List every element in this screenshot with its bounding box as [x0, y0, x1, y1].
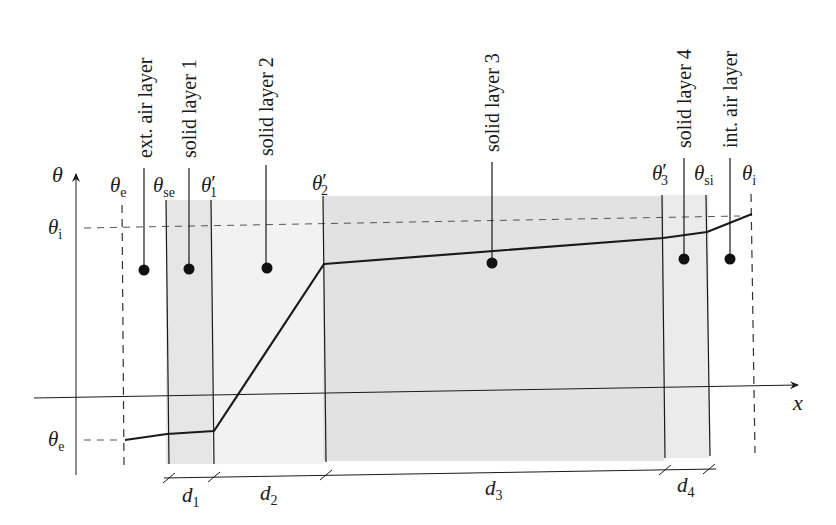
solid-layer-1-label: solid layer 1 [178, 59, 201, 158]
theta-2-prime-label: θ′2 [312, 169, 328, 198]
theta-i-label: θi [742, 161, 756, 188]
d1-label: d1 [182, 483, 200, 510]
int-boundary-dashed [751, 194, 755, 453]
ext-air-layer-dot [139, 265, 150, 276]
theta-e-label: θe [110, 173, 127, 200]
solid-layer-4-label: solid layer 4 [673, 49, 696, 148]
wall-temperature-diagram: ext. air layer solid layer 1 solid layer… [0, 0, 836, 525]
theta-3-prime-label: θ′3 [652, 159, 668, 188]
theta-e-tick-label: θe [48, 427, 65, 454]
d3-label: d3 [485, 476, 503, 503]
theta-i-tick-label: θi [48, 215, 62, 242]
int-air-layer-dot [725, 254, 736, 265]
solid-layer-3-dot [487, 258, 498, 269]
int-air-layer-label: int. air layer [719, 50, 742, 148]
solid-layer-2-region [212, 200, 323, 464]
solid-layer-3-region [323, 196, 664, 461]
ext-air-layer-label: ext. air layer [134, 57, 157, 158]
solid-layer-1-dot [184, 264, 195, 275]
theta-axis-label: θ [52, 162, 63, 187]
solid-layer-3-label: solid layer 3 [481, 53, 504, 152]
theta-1-prime-label: θ′1 [201, 171, 217, 200]
ext-boundary-dashed [122, 205, 124, 466]
theta-si-label: θsi [694, 161, 714, 188]
solid-layer-2-dot [262, 263, 273, 274]
d2-label: d2 [260, 481, 278, 508]
d4-label: d4 [677, 473, 695, 500]
theta-se-label: θse [153, 173, 175, 200]
x-axis-label: x [792, 390, 803, 415]
thickness-dimension-line [164, 469, 716, 478]
solid-layer-4-dot [679, 254, 690, 265]
solid-layer-2-label: solid layer 2 [255, 57, 278, 156]
